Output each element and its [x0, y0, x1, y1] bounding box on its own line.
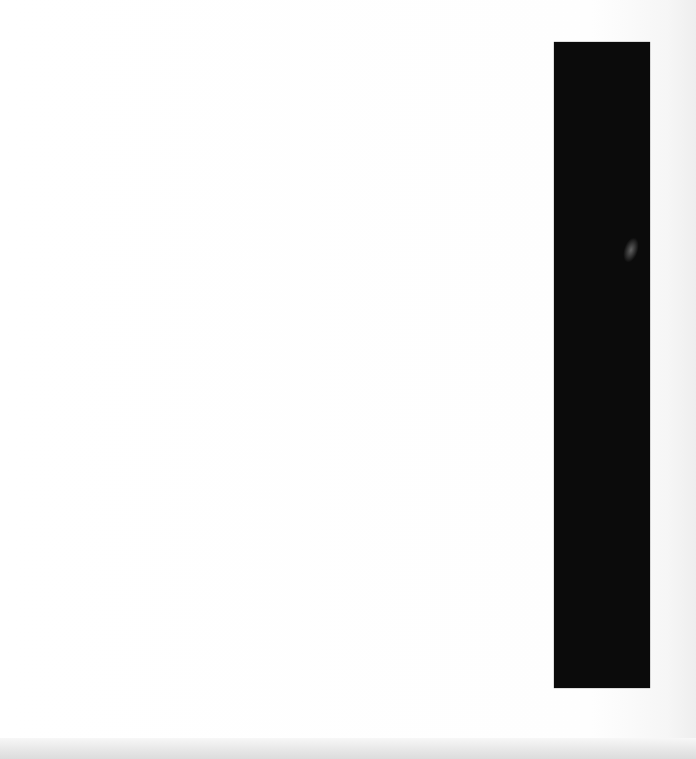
redaction-bar [554, 42, 650, 688]
scan-smudge-mark [620, 235, 641, 264]
page-bottom-edge-shadow [0, 738, 696, 759]
scanned-page [0, 0, 696, 759]
